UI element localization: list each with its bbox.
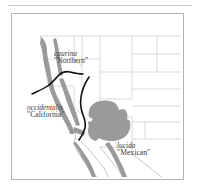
divider-caurina-occidentalis — [32, 72, 83, 94]
range-occidentalis-sierra — [59, 78, 80, 126]
range-lucida-core — [88, 101, 130, 142]
subspecies-range-shading — [40, 37, 130, 177]
map-frame: caurina "Northern" occidentalis "Califor… — [11, 13, 184, 180]
top-divider-rule — [8, 5, 192, 6]
range-caurina-cascades — [53, 38, 63, 76]
range-map-graphic — [12, 14, 181, 177]
figure-container: caurina "Northern" occidentalis "Califor… — [0, 0, 198, 193]
range-baja-strip — [73, 142, 96, 177]
